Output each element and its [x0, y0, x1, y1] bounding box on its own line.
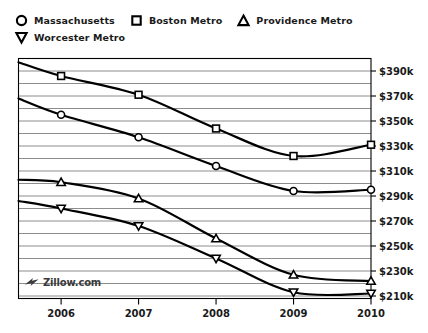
triangle-up-marker-icon [236, 13, 251, 28]
y-axis-tick-label: $390k [379, 66, 414, 77]
y-axis-tick-label: $290k [379, 191, 414, 202]
y-axis-tick-label: $310k [379, 166, 414, 177]
triangle-down-marker-icon [14, 30, 29, 45]
triangle-up-data-marker [289, 271, 297, 278]
triangle-down-data-marker [212, 255, 220, 262]
square-data-marker [135, 91, 142, 98]
circle-marker-icon [14, 13, 29, 28]
circle-data-marker [368, 186, 375, 193]
plot-frame [19, 59, 372, 299]
square-data-marker [213, 125, 220, 132]
y-axis-tick-label: $270k [379, 216, 414, 227]
square-data-marker [368, 141, 375, 148]
x-axis-tick-label: 2009 [280, 308, 308, 319]
chart-legend: Massachusetts Boston Metro Providence Me… [14, 12, 374, 46]
legend-row-2: Worcester Metro [14, 29, 374, 46]
triangle-down-data-marker [134, 223, 142, 230]
y-axis-tick-label: $350k [379, 116, 414, 127]
triangle-up-data-marker [57, 178, 65, 185]
circle-data-marker [135, 134, 142, 141]
legend-row-1: Massachusetts Boston Metro Providence Me… [14, 12, 374, 29]
square-marker-icon [129, 13, 144, 28]
circle-data-marker [213, 163, 220, 170]
series-massachusetts [19, 99, 375, 195]
x-axis-tick-label: 2010 [357, 308, 385, 319]
y-axis-tick-label: $330k [379, 141, 414, 152]
series-line [19, 62, 372, 156]
triangle-down-data-marker [289, 289, 297, 296]
y-axis-tick-label: $230k [379, 266, 414, 277]
y-axis-tick-label: $210k [379, 291, 414, 302]
x-axis-tick-label: 2007 [125, 308, 153, 319]
series-providence-metro [19, 178, 376, 284]
circle-data-marker [58, 111, 65, 118]
legend-label-worcester-metro: Worcester Metro [34, 30, 125, 45]
series-line [19, 99, 372, 193]
zillow-watermark: Zillow.com [24, 276, 101, 288]
y-axis-tick-label: $250k [379, 241, 414, 252]
triangle-up-data-marker [367, 277, 375, 284]
triangle-up-data-marker [134, 194, 142, 201]
legend-item-providence-metro[interactable]: Providence Metro [236, 13, 352, 28]
zillow-watermark-label: Zillow.com [43, 277, 101, 288]
series-line [19, 180, 372, 281]
series-boston-metro [19, 62, 375, 159]
legend-label-boston-metro: Boston Metro [149, 13, 222, 28]
y-axis-tick-label: $370k [379, 91, 414, 102]
triangle-up-data-marker [212, 234, 220, 241]
zillow-logo-icon [24, 276, 40, 288]
x-axis-tick-label: 2006 [47, 308, 75, 319]
x-axis-tick-label: 2008 [202, 308, 230, 319]
legend-label-massachusetts: Massachusetts [34, 13, 115, 28]
square-data-marker [58, 73, 65, 80]
legend-label-providence-metro: Providence Metro [256, 13, 352, 28]
home-value-line-chart: Massachusetts Boston Metro Providence Me… [0, 0, 428, 333]
circle-data-marker [290, 188, 297, 195]
legend-item-massachusetts[interactable]: Massachusetts [14, 13, 115, 28]
legend-item-boston-metro[interactable]: Boston Metro [129, 13, 222, 28]
legend-item-worcester-metro[interactable]: Worcester Metro [14, 30, 125, 45]
square-data-marker [290, 153, 297, 160]
triangle-down-data-marker [57, 205, 65, 212]
